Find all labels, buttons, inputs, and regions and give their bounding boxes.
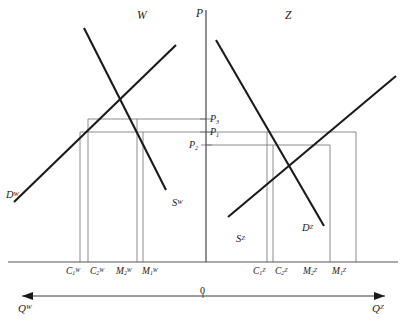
direction-label-left: QW [18, 303, 32, 314]
qty-label-M2Z-sup: Z [314, 267, 317, 273]
curve-label-demand-z-base: D [302, 222, 310, 233]
arrow-right-icon [374, 292, 385, 300]
qty-label-M1Z: M1Z [332, 267, 346, 277]
supply-w-curve [84, 28, 166, 190]
curve-label-demand-z: DZ [302, 223, 313, 234]
qty-label-C2W: C2W [90, 267, 104, 277]
qty-label-C1W-sup: W [75, 267, 80, 273]
curve-label-supply-w-sup: W [177, 198, 182, 205]
direction-label-right: QZ [372, 303, 384, 314]
arrow-left-icon [22, 292, 33, 300]
curve-label-supply-w: SW [172, 198, 183, 209]
qty-label-M1Z-sup: Z [343, 267, 346, 273]
curve-label-demand-w-base: D [6, 189, 14, 200]
qty-label-M2W-base: M [116, 266, 124, 276]
direction-label-left-sup: W [26, 303, 32, 310]
price-label-P1-sub: 1 [216, 131, 219, 138]
origin-label: 0 [200, 286, 205, 296]
qty-label-M2Z: M2Z [303, 267, 317, 277]
curve-label-supply-z: SZ [236, 234, 245, 245]
qty-label-M2W: M2W [116, 267, 132, 277]
qty-label-C2Z: C2Z [275, 267, 288, 277]
qty-label-M1W: M1W [142, 267, 158, 277]
axes [8, 10, 398, 262]
curve-label-demand-w-sup: W [14, 190, 19, 197]
price-label-P1: P1 [210, 127, 219, 138]
qty-label-C1Z: C1Z [253, 267, 266, 277]
curves [14, 28, 396, 226]
economics-diagram: W Z P DW SW SZ DZ P3 P1 P2 C1W C2W M2W M… [0, 0, 405, 323]
qty-label-C2Z-sup: Z [284, 267, 287, 273]
curve-label-demand-w: DW [6, 190, 19, 201]
direction-label-right-sup: Z [380, 303, 384, 310]
qty-label-C2W-sup: W [99, 267, 104, 273]
demand-z-curve [216, 40, 324, 226]
quantity-guide-lines [80, 119, 356, 262]
price-label-P2: P2 [189, 140, 198, 151]
qty-label-M1W-sup: W [153, 267, 158, 273]
demand-w-curve [14, 45, 176, 202]
qty-label-M2W-sup: W [127, 267, 132, 273]
supply-z-curve [228, 76, 396, 217]
curve-label-demand-z-sup: Z [310, 223, 314, 230]
qty-label-M2Z-base: M [303, 266, 311, 276]
panel-label-z: Z [285, 10, 291, 22]
curve-label-supply-z-sup: Z [241, 234, 245, 241]
qty-label-M1W-base: M [142, 266, 150, 276]
direction-label-left-base: Q [18, 302, 26, 314]
qty-label-C1Z-sup: Z [262, 267, 265, 273]
axis-label-price: P [196, 8, 203, 20]
price-label-P3-sub: 3 [216, 118, 219, 125]
qty-label-C1W: C1W [66, 267, 80, 277]
price-label-P2-sub: 2 [195, 144, 198, 151]
price-label-P3: P3 [210, 114, 219, 125]
qty-label-M1Z-base: M [332, 266, 340, 276]
panel-label-w: W [137, 10, 147, 22]
direction-label-right-base: Q [372, 302, 380, 314]
